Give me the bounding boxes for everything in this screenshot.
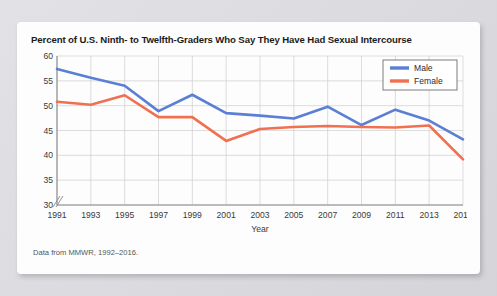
y-tick-label: 60	[43, 52, 53, 61]
x-tick-label: 1997	[149, 210, 168, 220]
x-tick-label: 2009	[352, 210, 371, 220]
chart-footnote: Data from MMWR, 1992–2016.	[33, 248, 138, 257]
x-tick-label: 1993	[81, 210, 100, 220]
page-background: Percent of U.S. Ninth- to Twelfth-Grader…	[0, 0, 497, 296]
line-chart: 3035404550556019911993199519971999200120…	[31, 52, 467, 237]
legend-label-female: Female	[414, 76, 443, 86]
x-tick-label: 2005	[284, 210, 303, 220]
x-tick-label: 2013	[420, 210, 439, 220]
y-tick-label: 55	[43, 76, 53, 86]
x-tick-label: 1999	[183, 210, 202, 220]
x-tick-label: 1995	[115, 210, 134, 220]
x-tick-label: 2001	[217, 210, 236, 220]
y-tick-label: 40	[43, 150, 53, 160]
y-tick-label: 50	[43, 101, 53, 111]
x-tick-label: 1991	[47, 210, 66, 220]
chart-title: Percent of U.S. Ninth- to Twelfth-Grader…	[31, 34, 471, 45]
chart-plot-area: 3035404550556019911993199519971999200120…	[31, 52, 467, 237]
x-tick-label: 2015	[453, 210, 467, 220]
x-tick-label: 2007	[318, 210, 337, 220]
x-tick-label: 2003	[250, 210, 269, 220]
y-tick-label: 30	[43, 200, 53, 210]
y-tick-label: 35	[43, 175, 53, 185]
figure-card: Percent of U.S. Ninth- to Twelfth-Grader…	[17, 22, 480, 274]
x-tick-label: 2011	[386, 210, 405, 220]
y-tick-label: 45	[43, 126, 53, 136]
x-axis-title: Year	[251, 224, 269, 234]
legend-label-male: Male	[414, 63, 433, 73]
